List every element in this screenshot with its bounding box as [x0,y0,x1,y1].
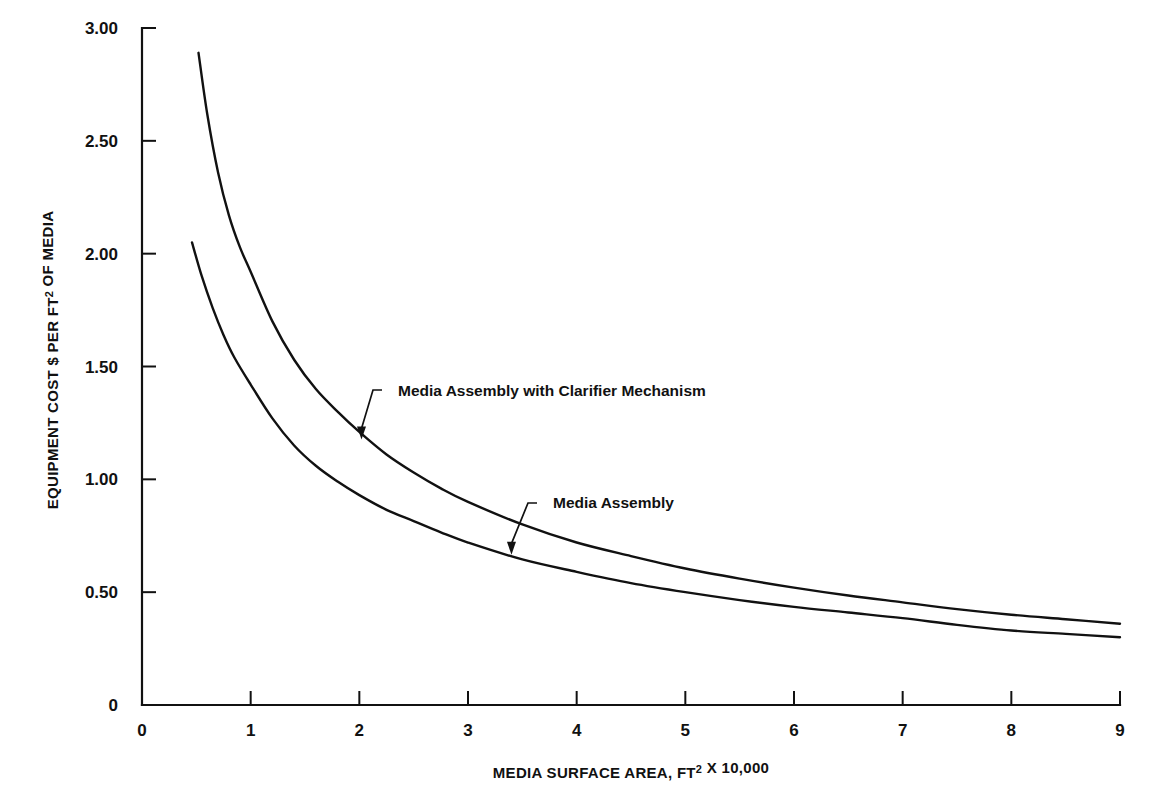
y-axis-tick-label: 3.00 [85,19,118,38]
y-axis-tick-label: 2.50 [85,132,118,151]
chart-container: 00.501.001.502.002.503.00 0123456789 Med… [0,0,1151,804]
y-axis-tick-label: 0 [109,696,118,715]
y-axis-tick-label: 0.50 [85,583,118,602]
chart-background [0,0,1151,804]
x-axis-tick-label: 0 [137,721,146,740]
y-axis-tick-label: 2.00 [85,245,118,264]
x-axis-tick-label: 6 [789,721,798,740]
x-axis-tick-label: 8 [1007,721,1016,740]
y-axis-tick-label: 1.00 [85,470,118,489]
x-axis-tick-label: 9 [1115,721,1124,740]
annotation-label-1: Media Assembly [553,494,674,511]
x-axis-tick-label: 1 [246,721,255,740]
x-axis-tick-label: 5 [681,721,690,740]
x-axis-tick-label: 3 [463,721,472,740]
x-axis-tick-label: 7 [898,721,907,740]
annotation-label-0: Media Assembly with Clarifier Mechanism [398,382,706,399]
x-axis-tick-label: 4 [572,721,582,740]
y-axis-tick-label: 1.50 [85,358,118,377]
x-axis-tick-label: 2 [355,721,364,740]
equipment-cost-line-chart: 00.501.001.502.002.503.00 0123456789 Med… [0,0,1151,804]
